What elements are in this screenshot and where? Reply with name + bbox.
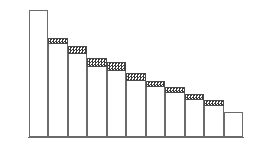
- bar-cap-3: [68, 46, 87, 54]
- bar-6: [126, 73, 146, 137]
- bar-8: [165, 87, 185, 137]
- bar-chart-figure: Descending bar chart with eleven white b…: [0, 0, 258, 148]
- bar-2: [48, 38, 68, 137]
- bar-3: [68, 46, 87, 137]
- bar-cap-6: [126, 73, 146, 81]
- plot-area: [0, 0, 258, 148]
- bar-cap-9: [185, 94, 204, 100]
- axis-baseline: [28, 137, 244, 138]
- bar-cap-7: [146, 81, 165, 87]
- bar-10: [204, 100, 224, 137]
- bar-1: [29, 10, 48, 137]
- bar-cap-10: [204, 100, 224, 106]
- bar-4: [87, 58, 107, 137]
- bar-7: [146, 81, 165, 137]
- bar-9: [185, 94, 204, 137]
- bar-cap-5: [107, 62, 126, 71]
- bar-cap-2: [48, 38, 68, 44]
- bar-cap-8: [165, 87, 185, 93]
- bar-cap-4: [87, 58, 107, 67]
- bar-5: [107, 62, 126, 137]
- bar-11: [224, 112, 243, 137]
